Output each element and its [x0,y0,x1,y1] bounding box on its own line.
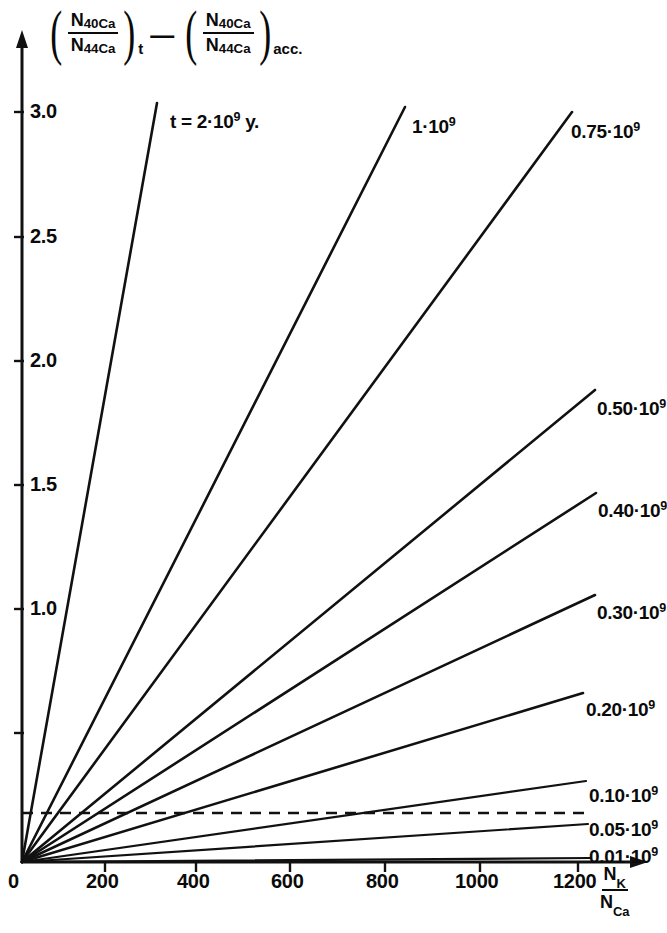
subscript-acc: acc. [273,41,302,58]
series-label-0-30e9: 0.30·109 [597,601,666,624]
annotation-t-2e9: t = 2·109 y. [170,110,259,133]
series-label-0-75e9-exp: 9 [633,120,640,134]
close-paren-1: ) [124,8,136,58]
series-label-0-05e9-text: 0.05·10 [589,819,651,840]
y-axis-arrow-icon [16,30,28,48]
ratio-denominator-2: N44Ca [203,34,254,56]
x-tick-label-600: 600 [271,870,303,893]
y-axis-title: ( N40Ca N44Ca ) t — ( N40Ca N44Ca ) acc. [46,8,302,58]
series-label-1e9: 1·109 [412,115,456,138]
minus-operator: — [143,23,181,47]
annotation-t-unit: y. [240,111,259,132]
series-line-0-40e9 [22,493,596,862]
series-label-0-10e9-text: 0.10·10 [589,785,651,806]
series-label-0-30e9-text: 0.30·10 [597,602,659,623]
x-tick-label-1000: 1000 [455,870,498,893]
ratio-fraction-2: N40Ca N44Ca [202,10,255,56]
y-tick-label-1-0: 1.0 [30,597,57,620]
series-line-0-05e9 [22,824,588,862]
isochron-lines-group [22,103,596,862]
series-label-0-40e9-text: 0.40·10 [598,500,660,521]
series-label-0-75e9-text: 0.75·10 [571,121,633,142]
series-label-0-50e9-text: 0.50·10 [597,398,659,419]
x-tick-label-1200: 1200 [553,870,596,893]
ratio-denominator-1: N44Ca [68,34,119,56]
series-label-0-40e9: 0.40·109 [598,499,667,522]
x-tick-label-800: 800 [366,870,398,893]
series-label-0-10e9-exp: 9 [651,784,658,798]
open-paren-2: ( [185,8,197,58]
series-label-1e9-text: 1·10 [412,116,449,137]
ratio-fraction-1: N40Ca N44Ca [67,10,120,56]
x-tick-label-200: 200 [86,870,118,893]
close-paren-2: ) [259,8,271,58]
x-title-denominator: NCa [598,891,632,916]
open-paren-1: ( [50,8,62,58]
series-label-0-01e9-exp: 9 [651,845,658,859]
series-label-0-20e9-text: 0.20·10 [586,699,648,720]
series-label-0-30e9-exp: 9 [659,601,666,615]
series-label-0-05e9-exp: 9 [651,818,658,832]
series-label-0-20e9: 0.20·109 [586,698,655,721]
series-label-0-50e9: 0.50·109 [597,397,666,420]
x-axis-title: NK NCa [598,864,632,916]
series-label-0-10e9: 0.10·109 [589,784,658,807]
series-line-0-20e9 [22,693,583,862]
x-tick-label-0: 0 [8,870,19,893]
ratio-numerator-2: N40Ca [203,10,254,34]
x-tick-label-400: 400 [177,870,209,893]
y-tick-label-3-0: 3.0 [30,100,57,123]
series-label-0-01e9-text: 0.01·10 [589,846,651,867]
series-label-0-05e9: 0.05·109 [589,818,658,841]
series-label-0-01e9: 0.01·109 [589,845,658,868]
series-label-0-20e9-exp: 9 [648,698,655,712]
series-line-1e9 [22,107,405,862]
series-label-0-75e9: 0.75·109 [571,120,640,143]
y-tick-label-1-5: 1.5 [30,473,57,496]
series-label-0-40e9-exp: 9 [660,499,667,513]
ratio-numerator-1: N40Ca [68,10,119,34]
y-tick-label-2-5: 2.5 [30,225,57,248]
y-tick-label-2-0: 2.0 [30,349,57,372]
y-axis-group [14,30,28,862]
series-line-0-75e9 [22,112,572,862]
series-label-0-50e9-exp: 9 [659,397,666,411]
series-label-1e9-exp: 9 [449,115,456,129]
annotation-t-text: t = 2·10 [170,111,234,132]
